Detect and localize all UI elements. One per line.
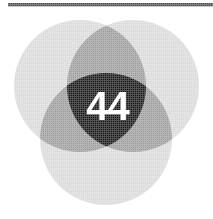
venn-diagram-page: 44 <box>0 0 213 219</box>
venn-diagram-figure <box>0 0 213 219</box>
venn-diagram-svg <box>0 0 213 219</box>
